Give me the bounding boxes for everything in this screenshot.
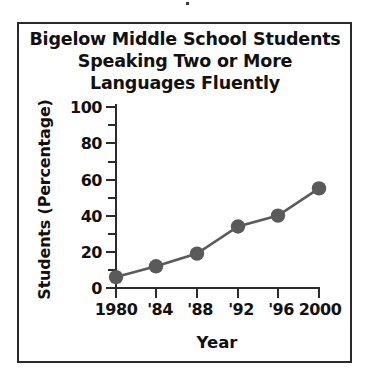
series-markers: [109, 181, 326, 284]
data-point-1988: [190, 246, 204, 260]
series-line: [116, 188, 319, 277]
data-point-2000: [312, 181, 326, 195]
chart-figure: Bigelow Middle School Students Speaking …: [0, 0, 370, 377]
data-point-1996: [271, 208, 285, 222]
data-point-1992: [231, 219, 245, 233]
data-point-1984: [149, 259, 163, 273]
data-series-layer: [0, 0, 370, 377]
data-point-1980: [109, 270, 123, 284]
